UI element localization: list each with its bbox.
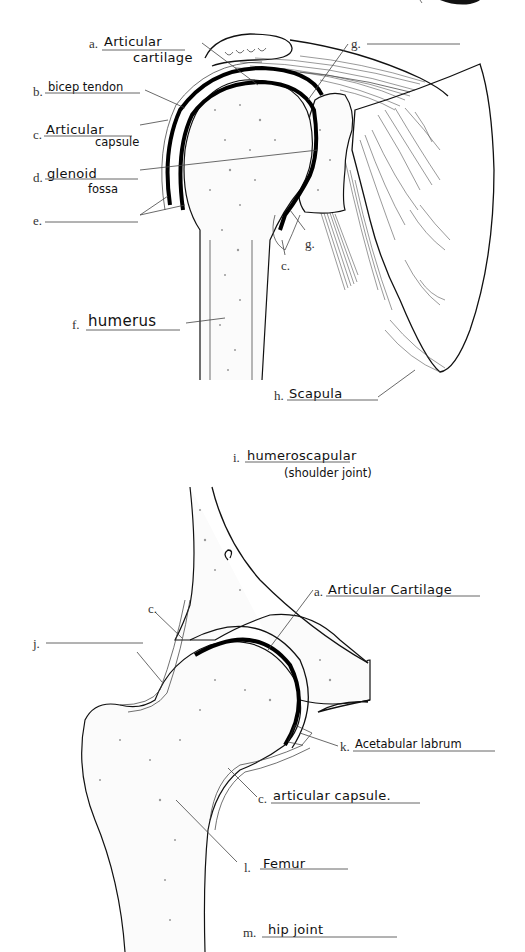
svg-text:a.: a. xyxy=(314,584,323,599)
shoulder-label-e: e. xyxy=(33,213,138,228)
svg-text:f.: f. xyxy=(72,317,80,332)
svg-text:c.: c. xyxy=(258,791,267,806)
shoulder-diagram xyxy=(140,34,494,397)
shoulder-label-b: b. bicep tendon xyxy=(33,80,140,99)
shoulder-label-h: h. Scapula xyxy=(274,386,378,403)
hip-label-l: l. Femur xyxy=(244,856,348,875)
shoulder-label-c-inner: c. xyxy=(281,258,290,273)
svg-text:k.: k. xyxy=(340,739,350,754)
shoulder-label-f: f. humerus xyxy=(72,312,180,332)
hip-label-j: j. xyxy=(32,636,143,651)
shoulder-label-a: a. Articular cartilage xyxy=(89,34,193,65)
shoulder-label-c: c. Articular capsule xyxy=(33,122,139,149)
joint-diagrams: a. Articular cartilage b. bicep tendon c… xyxy=(0,0,525,952)
svg-text:e.: e. xyxy=(33,213,42,228)
svg-text:(shoulder joint): (shoulder joint) xyxy=(284,466,372,480)
shoulder-label-d: d. glenoid fossa xyxy=(33,166,138,196)
svg-text:l.: l. xyxy=(244,860,251,875)
svg-text:c.: c. xyxy=(33,127,42,142)
svg-text:humerus: humerus xyxy=(88,312,156,330)
svg-text:a.: a. xyxy=(89,36,98,51)
hip-label-k: k. Acetabular labrum xyxy=(340,737,495,754)
svg-text:cartilage: cartilage xyxy=(133,50,193,65)
shoulder-title-i: i. humeroscapular (shoulder joint) xyxy=(233,448,372,480)
svg-text:h.: h. xyxy=(274,388,284,403)
svg-text:d.: d. xyxy=(33,170,43,185)
hip-label-a: a. Articular Cartilage xyxy=(314,582,480,599)
svg-text:j.: j. xyxy=(32,636,40,651)
svg-text:bicep tendon: bicep tendon xyxy=(48,80,123,94)
svg-text:Acetabular labrum: Acetabular labrum xyxy=(355,737,462,751)
svg-text:fossa: fossa xyxy=(88,182,118,196)
svg-text:Articular Cartilage: Articular Cartilage xyxy=(328,582,452,597)
svg-text:g.: g. xyxy=(305,236,315,251)
hip-label-m: m. hip joint xyxy=(243,922,397,940)
svg-text:humeroscapular: humeroscapular xyxy=(247,448,357,463)
hip-label-c-top: c. xyxy=(148,601,157,616)
hip-diagram xyxy=(82,487,370,952)
svg-text:c.: c. xyxy=(281,258,290,273)
svg-text:capsule: capsule xyxy=(95,135,139,149)
svg-text:articular capsule.: articular capsule. xyxy=(273,788,391,803)
shoulder-label-g-inner: g. xyxy=(305,236,315,251)
cropped-decoration xyxy=(420,0,480,5)
svg-text:Scapula: Scapula xyxy=(289,386,343,401)
anatomy-worksheet: a. Articular cartilage b. bicep tendon c… xyxy=(0,0,525,952)
hip-label-c: c. articular capsule. xyxy=(258,788,420,806)
svg-text:Articular: Articular xyxy=(104,34,162,49)
svg-text:b.: b. xyxy=(33,84,43,99)
svg-text:m.: m. xyxy=(243,925,256,940)
svg-text:hip joint: hip joint xyxy=(268,922,323,937)
svg-text:g.: g. xyxy=(351,36,361,51)
svg-text:i.: i. xyxy=(233,450,240,465)
svg-text:c.: c. xyxy=(148,601,157,616)
shoulder-label-g-top: g. xyxy=(351,36,460,51)
